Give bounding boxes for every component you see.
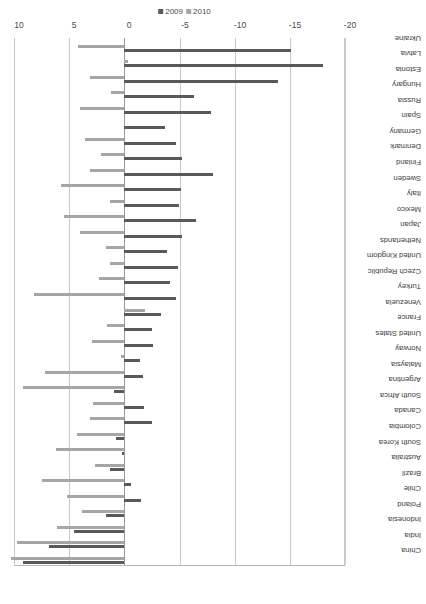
bar-2010-ukraine (78, 45, 124, 48)
bar-2009-colombia (116, 437, 125, 440)
bar-2010-united-kingdom (110, 262, 124, 265)
tick-label-0: 0 (127, 20, 132, 30)
bar-group (14, 363, 345, 379)
bar-2010-canada (90, 417, 124, 420)
category-label-chile: Chile (404, 484, 421, 493)
category-label-turkey: Turkey (398, 282, 421, 291)
gridline--20 (345, 38, 346, 565)
bar-2010-indonesia (57, 526, 124, 529)
bar-2009-south-korea (122, 452, 124, 455)
bar-group (14, 410, 345, 426)
bar-2009-australia (110, 468, 124, 471)
category-label-hungary: Hungary (392, 80, 421, 89)
bar-2009-sweden (124, 188, 180, 191)
bar-group (14, 53, 345, 69)
category-label-france: France (397, 313, 421, 322)
category-label-netherlands: Netherlands (380, 236, 421, 245)
tick-label-10: 10 (14, 20, 23, 30)
bar-2009-argentina (114, 390, 124, 393)
bar-2009-united-kingdom (124, 266, 178, 269)
bar-2010-chile (67, 495, 124, 498)
bar-2009-malaysia (124, 375, 143, 378)
bar-2009-chile (124, 499, 141, 502)
bar-2009-canada (124, 421, 152, 424)
category-label-czech-republic: Czech Republic (368, 267, 421, 276)
legend-label-2009: 2009 (165, 7, 183, 16)
bar-group (14, 317, 345, 333)
bar-2010-japan (80, 231, 124, 234)
bar-2010-india (17, 541, 124, 544)
bar-group (14, 37, 345, 53)
bar-group (14, 192, 345, 208)
bar-2010-china (11, 557, 125, 560)
bar-2009-finland (124, 173, 212, 176)
bar-2009-mexico (124, 219, 196, 222)
category-label-united-kingdom: United Kingdom (367, 251, 421, 260)
category-label-colombia: Colombia (389, 422, 421, 431)
category-label-china: China (401, 546, 421, 555)
bar-group (14, 549, 345, 565)
bar-group (14, 177, 345, 193)
category-axis-labels: ChinaIndiaIndonesiaPolandChileBrazilAust… (347, 38, 425, 566)
bar-2010-spain (124, 122, 125, 125)
bar-chart-figure: 1050-5-10-15-20 ChinaIndiaIndonesiaPolan… (0, 0, 426, 604)
bar-2009-estonia (124, 80, 277, 83)
tick-label--15: -15 (289, 20, 301, 30)
bar-group (14, 518, 345, 534)
bar-2010-finland (90, 169, 124, 172)
bar-2010-denmark (101, 153, 124, 156)
legend-swatch-2010 (186, 9, 191, 14)
category-label-canada: Canada (394, 406, 421, 415)
tick-label-5: 5 (72, 20, 77, 30)
bar-2010-venezuela (124, 309, 145, 312)
category-label-germany: Germany (390, 127, 421, 136)
bar-2009-ukraine (124, 49, 291, 52)
legend-item-2010[interactable]: 2010 (186, 7, 211, 16)
bar-group (14, 115, 345, 131)
bar-2010-brazil (42, 479, 125, 482)
category-label-latvia: Latvia (401, 49, 421, 58)
tick-label--10: -10 (234, 20, 246, 30)
category-label-italy: Italy (407, 189, 421, 198)
bar-2009-russia (124, 111, 211, 114)
category-label-japan: Japan (400, 220, 421, 229)
plot-area (14, 38, 345, 566)
bar-group (14, 487, 345, 503)
bar-group (14, 301, 345, 317)
category-label-mexico: Mexico (397, 205, 421, 214)
bar-2010-colombia (77, 433, 124, 436)
bar-2010-russia (80, 107, 124, 110)
category-label-indonesia: Indonesia (388, 515, 421, 524)
category-label-india: India (405, 531, 421, 540)
bar-group (14, 379, 345, 395)
bar-2010-mexico (64, 215, 125, 218)
bar-group (14, 270, 345, 286)
bar-2009-italy (124, 204, 179, 207)
category-label-poland: Poland (397, 500, 421, 509)
bar-group (14, 208, 345, 224)
bar-2009-germany (124, 142, 176, 145)
bar-2009-united-states (124, 344, 153, 347)
bar-group (14, 425, 345, 441)
bar-2009-latvia (124, 64, 323, 67)
bar-2009-netherlands (124, 250, 167, 253)
bar-2009-denmark (124, 157, 181, 160)
bar-series-container (14, 38, 345, 565)
bar-2010-france (107, 324, 125, 327)
bar-2009-japan (124, 235, 181, 238)
bar-2010-argentina (23, 386, 125, 389)
bar-2009-hungary (124, 95, 194, 98)
bar-group (14, 534, 345, 550)
legend-item-2009[interactable]: 2009 (158, 7, 183, 16)
bar-group (14, 332, 345, 348)
bar-group (14, 239, 345, 255)
tick-label--20: -20 (344, 20, 356, 30)
category-label-ukraine: Ukraine (395, 34, 421, 43)
category-label-estonia: Estonia (396, 65, 421, 74)
category-label-australia: Australia (391, 453, 421, 462)
category-label-south-korea: South Korea (379, 438, 421, 447)
bar-group (14, 68, 345, 84)
bar-2010-malaysia (45, 371, 124, 374)
bar-group (14, 146, 345, 162)
bar-2010-czech-republic (99, 277, 124, 280)
